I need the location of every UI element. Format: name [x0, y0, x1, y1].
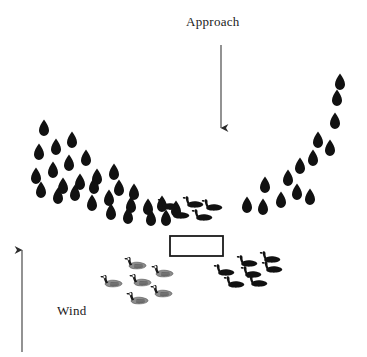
teardrop-decoy	[242, 197, 252, 213]
goose-body	[131, 297, 148, 304]
teardrop-shape	[31, 168, 41, 184]
teardrop-shape	[283, 170, 293, 186]
teardrop-shape	[295, 158, 305, 174]
decoy-spread-diagram: Approach Wind	[0, 0, 367, 357]
teardrop-decoy	[283, 170, 293, 186]
goose-body	[156, 270, 173, 277]
goose-bill	[192, 210, 195, 212]
goose-neck	[205, 199, 210, 207]
teardrop-decoy	[258, 199, 268, 215]
goose-silhouette	[214, 264, 234, 275]
teardrop-decoy	[313, 132, 323, 148]
teardrop-decoy	[64, 155, 74, 171]
canada-goose-decoys	[100, 257, 173, 304]
goose-neck	[244, 266, 249, 274]
teardrop-shape	[106, 204, 116, 220]
goose-body	[241, 260, 257, 266]
teardrop-shape	[335, 74, 345, 90]
canada-goose-decoy	[151, 265, 173, 277]
canada-goose-decoy	[124, 257, 146, 269]
teardrop-shape	[260, 177, 270, 193]
teardrop-decoy	[308, 150, 318, 166]
teardrop-shape	[114, 180, 124, 196]
goose-neck	[240, 255, 245, 263]
teardrop-decoy	[34, 144, 44, 160]
goose-bill	[183, 197, 186, 199]
blind-rectangle	[170, 236, 223, 256]
teardrop-shape	[34, 144, 44, 160]
teardrop-decoy	[260, 177, 270, 193]
goose-body	[266, 266, 282, 272]
goose-body	[251, 280, 267, 286]
goose-bill	[237, 256, 240, 258]
teardrop-shape	[313, 132, 323, 148]
goose-silhouette	[237, 255, 257, 266]
goose-neck	[227, 276, 232, 284]
goose-silhouette	[260, 251, 280, 262]
goose-bill	[202, 200, 205, 202]
goose-bill	[260, 252, 263, 254]
direction-arrows	[22, 45, 221, 352]
teardrop-shape	[161, 210, 171, 226]
teardrop-shape	[330, 113, 340, 129]
teardrop-decoy	[31, 168, 41, 184]
teardrop-shape	[39, 120, 49, 136]
diagram-artwork	[0, 0, 367, 357]
goose-silhouette	[262, 261, 282, 272]
teardrop-decoy	[335, 74, 345, 90]
teardrop-shape	[109, 164, 119, 180]
hunting-blind	[170, 236, 223, 256]
teardrop-decoy	[330, 113, 340, 129]
teardrop-decoy	[106, 204, 116, 220]
teardrop-decoy	[129, 184, 139, 200]
teardrop-decoy	[67, 132, 77, 148]
teardrop-shape	[242, 197, 252, 213]
teardrop-decoy	[104, 190, 114, 206]
teardrop-decoy	[332, 90, 342, 106]
teardrop-shape	[87, 195, 97, 211]
goose-neck	[195, 209, 200, 217]
goose-body	[196, 214, 212, 220]
goose-silhouette	[224, 276, 244, 287]
teardrop-decoy	[87, 195, 97, 211]
goose-body	[206, 204, 222, 210]
goose-body	[187, 201, 203, 207]
teardrop-shape	[292, 184, 302, 200]
goose-body	[129, 262, 146, 269]
teardrop-decoy	[81, 150, 91, 166]
goose-bill	[262, 262, 265, 264]
teardrop-shape	[305, 189, 315, 205]
goose-neck	[265, 261, 270, 269]
goose-silhouette	[183, 196, 203, 207]
teardrop-shape	[104, 190, 114, 206]
teardrop-decoy	[276, 192, 286, 208]
goose-body	[155, 290, 172, 297]
teardrop-shape	[36, 182, 46, 198]
teardrop-decoy	[292, 184, 302, 200]
teardrop-decoy	[325, 140, 335, 156]
goose-body	[218, 269, 234, 275]
canada-goose-decoy	[150, 285, 172, 297]
canada-goose-decoy	[126, 292, 148, 304]
teardrop-shape	[64, 155, 74, 171]
teardrop-decoy	[39, 120, 49, 136]
goose-body	[105, 280, 122, 287]
teardrop-decoy	[36, 182, 46, 198]
teardrop-shape	[51, 139, 61, 155]
teardrop-shape	[308, 150, 318, 166]
goose-neck	[186, 196, 191, 204]
teardrop-shape	[325, 140, 335, 156]
goose-silhouette	[202, 199, 222, 210]
teardrop-shape	[129, 184, 139, 200]
teardrop-decoy	[114, 180, 124, 196]
teardrop-shape	[258, 199, 268, 215]
goose-bill	[241, 267, 244, 269]
teardrop-shape	[67, 132, 77, 148]
goose-body	[228, 281, 244, 287]
teardrop-shape	[48, 162, 58, 178]
teardrop-decoy	[295, 158, 305, 174]
goose-neck	[217, 264, 222, 272]
teardrop-decoy	[51, 139, 61, 155]
goose-bill	[224, 277, 227, 279]
teardrop-shape	[332, 90, 342, 106]
